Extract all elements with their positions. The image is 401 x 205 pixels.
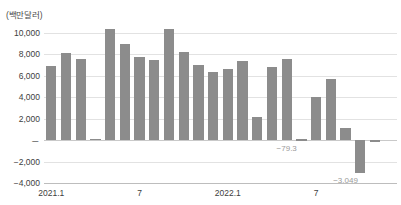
bar — [267, 67, 277, 140]
bar — [179, 52, 189, 140]
bar — [149, 60, 159, 140]
bar — [355, 140, 365, 173]
data-label: −79.3 — [277, 144, 297, 153]
bar — [296, 139, 306, 141]
y-tick-label: −2,000 — [0, 157, 40, 167]
y-axis-unit-caption: (백만달러) — [6, 8, 42, 20]
bar-chart: (백만달러) −79.3−3,049 10,0008,0006,0004,000… — [0, 0, 401, 205]
bar — [252, 117, 262, 141]
plot-area: −79.3−3,049 — [44, 33, 397, 183]
bar — [120, 44, 130, 140]
bar — [223, 69, 233, 140]
y-tick-label: 10,000 — [0, 28, 40, 38]
x-tick-label: 2022.1 — [215, 188, 241, 198]
y-tick-label: −4,000 — [0, 178, 40, 188]
bar — [46, 66, 56, 140]
bar — [237, 61, 247, 140]
y-tick-label: 6,000 — [0, 71, 40, 81]
x-tick-label: 7 — [137, 188, 142, 198]
y-tick-label: 8,000 — [0, 49, 40, 59]
bar — [282, 59, 292, 140]
bar-series — [44, 33, 397, 183]
bar — [105, 29, 115, 140]
bar — [90, 139, 100, 141]
y-tick-label: － — [0, 134, 40, 146]
bar — [76, 59, 86, 140]
bar — [164, 29, 174, 140]
bar — [208, 72, 218, 141]
x-tick-label: 2021.1 — [38, 188, 64, 198]
bar — [61, 53, 71, 140]
x-tick-label: 7 — [314, 188, 319, 198]
y-tick-label: 2,000 — [0, 114, 40, 124]
bar — [326, 79, 336, 140]
bar — [340, 128, 350, 140]
bar — [370, 140, 380, 142]
bar — [193, 65, 203, 140]
bar — [134, 57, 144, 141]
y-tick-label: 4,000 — [0, 92, 40, 102]
bar — [311, 97, 321, 140]
x-axis-line — [44, 183, 397, 184]
